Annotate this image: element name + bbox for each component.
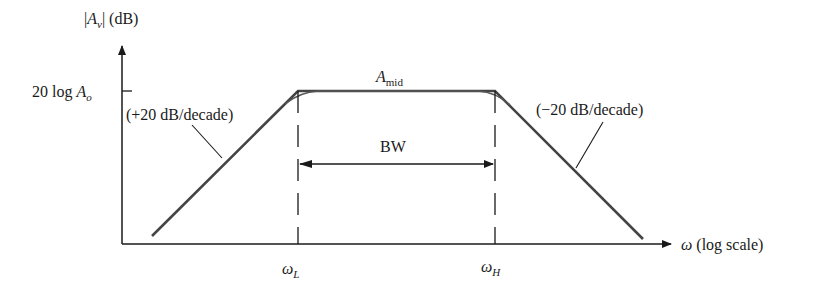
right-slope-leader	[576, 122, 603, 168]
right-slope-label: (−20 dB/decade)	[536, 101, 643, 119]
y-tick-label: 20 log Ao	[32, 83, 92, 103]
midband-gain-label: Amid	[375, 68, 403, 88]
bode-plot: |Av| (dB) 20 log Ao (+20 dB/decade) (−20…	[0, 0, 819, 297]
left-slope-label: (+20 dB/decade)	[126, 106, 233, 124]
bandwidth-arrow-left-head	[299, 160, 312, 168]
y-axis-label: |Av| (dB)	[84, 10, 138, 30]
left-slope-leader	[192, 125, 222, 158]
actual-response-curve	[285, 91, 510, 105]
lower-cutoff-label: ωL	[282, 260, 299, 280]
upper-cutoff-label: ωH	[481, 258, 501, 278]
x-axis-label: ω (log scale)	[681, 236, 763, 254]
bandwidth-label: BW	[380, 138, 407, 155]
